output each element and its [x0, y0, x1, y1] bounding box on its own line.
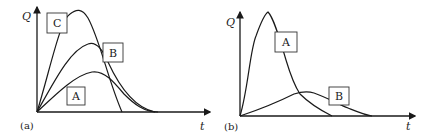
y-axis-label-a: Q [22, 10, 31, 23]
curve-b-b [240, 92, 372, 116]
label-b: B [109, 47, 117, 60]
x-axis-label-b: t [406, 120, 411, 133]
curve-a-b [240, 12, 332, 116]
panel-b: Q t (b) A B [224, 12, 415, 133]
x-axis-label-a: t [200, 120, 205, 133]
panel-label-a: (a) [20, 120, 34, 131]
label-a: A [71, 90, 81, 103]
curve-b [37, 43, 155, 112]
hydrograph-figure: Q t (a) C B A Q t (b) A B [0, 0, 430, 138]
y-axis-label-b: Q [226, 16, 235, 29]
label-b-b: B [335, 90, 343, 103]
label-c: C [53, 17, 61, 30]
panel-label-b: (b) [224, 121, 238, 132]
label-a-b: A [281, 36, 291, 49]
panel-a: Q t (a) C B A [20, 7, 210, 133]
